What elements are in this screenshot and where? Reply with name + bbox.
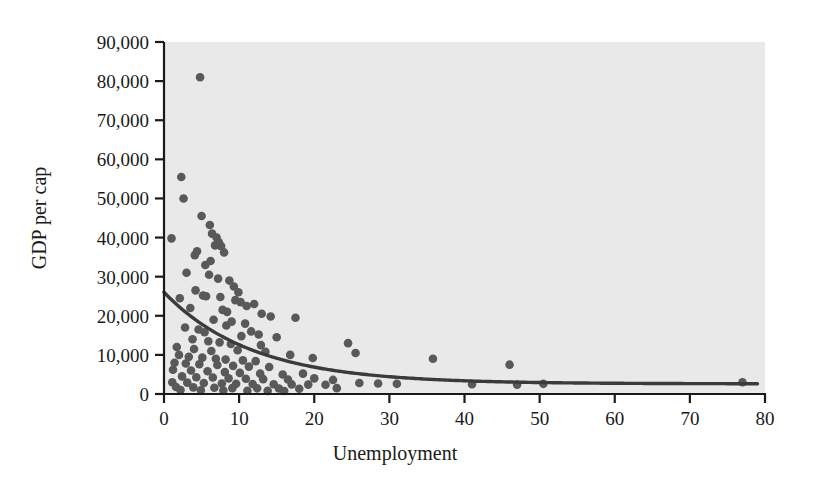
data-point xyxy=(222,321,231,330)
data-point xyxy=(188,335,197,344)
data-point xyxy=(228,384,237,393)
data-point xyxy=(190,345,199,354)
x-tick-label: 30 xyxy=(380,408,399,429)
data-point xyxy=(295,384,304,393)
x-axis-title: Unemployment xyxy=(333,442,458,465)
data-point xyxy=(242,302,251,311)
data-point xyxy=(308,354,317,363)
data-point xyxy=(197,212,206,221)
data-point xyxy=(241,319,250,328)
data-point xyxy=(191,286,200,295)
data-point xyxy=(175,351,184,360)
data-point xyxy=(182,268,191,277)
data-point xyxy=(287,380,296,389)
data-point xyxy=(266,312,275,321)
data-point xyxy=(191,251,200,260)
data-point xyxy=(374,379,383,388)
data-point xyxy=(204,337,213,346)
data-point xyxy=(247,327,256,336)
data-point xyxy=(218,379,227,388)
plot-area-background xyxy=(164,42,765,394)
data-point xyxy=(207,347,216,356)
data-point xyxy=(209,373,218,382)
data-point xyxy=(254,330,263,339)
y-tick-label: 80,000 xyxy=(97,71,149,92)
data-point xyxy=(189,383,198,392)
data-point xyxy=(291,313,300,322)
data-point xyxy=(393,380,402,389)
data-point xyxy=(321,381,330,390)
data-point xyxy=(242,374,251,383)
x-tick-label: 70 xyxy=(680,408,699,429)
x-tick-label: 20 xyxy=(305,408,324,429)
data-point xyxy=(220,248,229,257)
data-point xyxy=(192,373,201,382)
data-point xyxy=(175,294,184,303)
data-point xyxy=(206,221,215,230)
y-tick-label: 70,000 xyxy=(97,110,149,131)
data-point xyxy=(179,194,188,203)
data-point xyxy=(215,338,224,347)
data-point xyxy=(253,384,262,393)
y-tick-label: 20,000 xyxy=(97,306,149,327)
y-tick-label: 90,000 xyxy=(97,32,149,53)
data-point xyxy=(310,374,319,383)
data-point xyxy=(170,358,179,367)
data-point xyxy=(237,332,246,341)
data-point xyxy=(229,362,238,371)
data-point xyxy=(169,365,178,374)
data-point xyxy=(209,315,218,324)
data-point xyxy=(181,323,190,332)
data-point xyxy=(332,384,341,393)
data-point xyxy=(186,304,195,313)
data-point xyxy=(223,308,232,317)
data-point xyxy=(245,362,254,371)
data-point xyxy=(355,379,364,388)
chart-figure: 010,00020,00030,00040,00050,00060,00070,… xyxy=(0,0,822,490)
data-point xyxy=(196,73,205,82)
data-point xyxy=(429,355,438,364)
data-point xyxy=(257,341,266,350)
data-point xyxy=(259,375,268,384)
data-point xyxy=(216,293,225,302)
y-tick-label: 30,000 xyxy=(97,267,149,288)
data-point xyxy=(265,363,274,372)
data-point xyxy=(272,333,281,342)
data-point xyxy=(210,383,219,392)
y-tick-label: 50,000 xyxy=(97,188,149,209)
x-tick-label: 80 xyxy=(756,408,775,429)
x-tick-label: 50 xyxy=(530,408,549,429)
data-point xyxy=(299,369,308,378)
data-point xyxy=(234,288,243,297)
y-axis-title: GDP per cap xyxy=(28,167,51,270)
x-tick-label: 60 xyxy=(605,408,624,429)
x-tick-label: 40 xyxy=(455,408,474,429)
y-tick-label: 40,000 xyxy=(97,228,149,249)
y-tick-label: 10,000 xyxy=(97,345,149,366)
data-point xyxy=(195,360,204,369)
data-point xyxy=(351,349,360,358)
scatter-plot: 010,00020,00030,00040,00050,00060,00070,… xyxy=(0,0,822,490)
data-point xyxy=(344,339,353,348)
data-point xyxy=(251,357,260,366)
data-point xyxy=(257,310,266,319)
data-point xyxy=(213,361,222,370)
y-tick-label: 0 xyxy=(140,384,150,405)
data-point xyxy=(250,300,259,309)
data-point xyxy=(167,234,176,243)
data-point xyxy=(214,274,223,283)
data-point xyxy=(286,351,295,360)
y-tick-label: 60,000 xyxy=(97,149,149,170)
data-point xyxy=(505,360,514,369)
data-point xyxy=(329,376,338,385)
x-tick-label: 0 xyxy=(159,408,169,429)
data-point xyxy=(181,359,190,368)
data-point xyxy=(239,356,248,365)
data-point xyxy=(205,270,214,279)
data-point xyxy=(202,292,211,301)
data-point xyxy=(221,355,230,364)
x-tick-label: 10 xyxy=(230,408,249,429)
data-point xyxy=(172,343,181,352)
data-point xyxy=(304,380,313,389)
data-point xyxy=(177,173,186,182)
